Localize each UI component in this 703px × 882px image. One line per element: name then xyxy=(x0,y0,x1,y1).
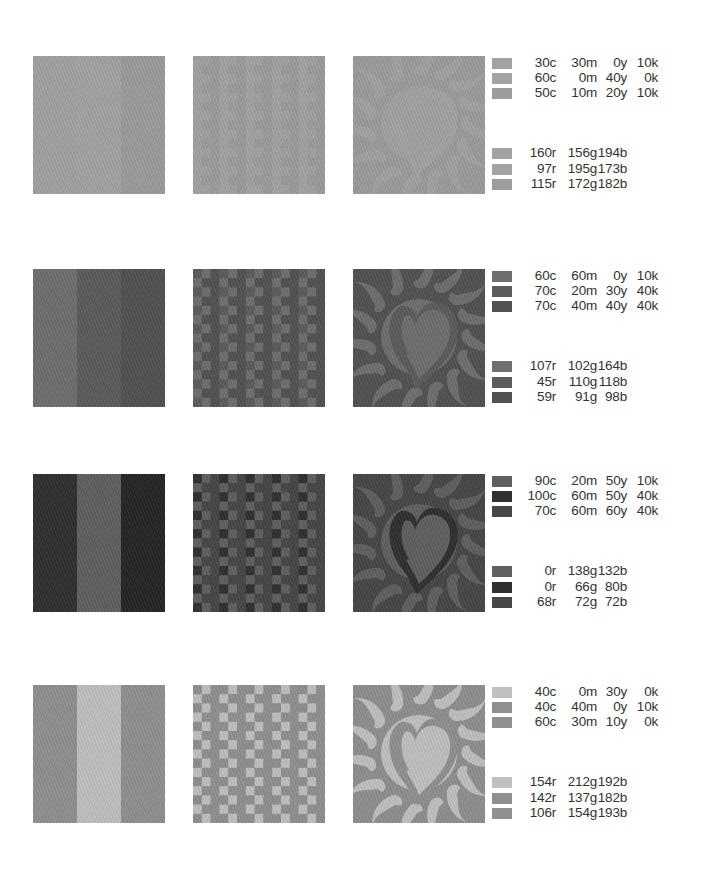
rgb-g-value: 156g xyxy=(568,145,597,160)
cmyk-swatch xyxy=(492,476,512,487)
cmyk-swatch xyxy=(492,58,512,69)
cmyk-k-value: 40k xyxy=(637,283,658,298)
cmyk-m-value: 60m xyxy=(571,488,597,503)
cmyk-c-value: 70c xyxy=(535,298,556,313)
cmyk-c-value: 40c xyxy=(535,684,556,699)
rgb-r-value: 160r xyxy=(530,145,556,160)
rgb-r-value: 0r xyxy=(544,579,556,594)
rgb-r-value: 154r xyxy=(530,774,556,789)
stripe-color-3 xyxy=(121,56,165,194)
rgb-r-value: 107r xyxy=(530,358,556,373)
cmyk-y-value: 20y xyxy=(606,85,627,100)
rgb-g-value: 195g xyxy=(568,161,597,176)
stripe-color-2 xyxy=(77,474,121,612)
cmyk-swatch xyxy=(492,73,512,84)
cmyk-c-value: 40c xyxy=(535,699,556,714)
rgb-g-value: 212g xyxy=(568,774,597,789)
cmyk-swatch xyxy=(492,687,512,698)
cmyk-c-value: 50c xyxy=(535,85,556,100)
rgb-g-value: 91g xyxy=(575,389,597,404)
rgb-r-value: 115r xyxy=(531,176,556,191)
cmyk-k-value: 40k xyxy=(637,503,658,518)
flaming-heart-icon xyxy=(353,269,485,407)
cmyk-k-value: 10k xyxy=(637,699,658,714)
rgb-swatch xyxy=(492,392,512,403)
stripe-color-3 xyxy=(121,685,165,823)
rgb-swatch xyxy=(492,597,512,608)
checkerboard-pattern-panel xyxy=(193,56,325,194)
cmyk-swatch xyxy=(492,491,512,502)
stripe-color-1 xyxy=(33,56,77,194)
cmyk-k-value: 0k xyxy=(644,684,658,699)
rgb-r-value: 59r xyxy=(537,389,556,404)
rgb-r-value: 0r xyxy=(544,563,556,578)
stripe-color-3 xyxy=(121,269,165,407)
rgb-g-value: 154g xyxy=(568,805,597,820)
cmyk-k-value: 40k xyxy=(637,488,658,503)
cmyk-y-value: 50y xyxy=(606,473,627,488)
cmyk-k-value: 10k xyxy=(637,85,658,100)
cmyk-y-value: 10y xyxy=(606,714,627,729)
rgb-g-value: 102g xyxy=(568,358,597,373)
cmyk-y-value: 0y xyxy=(613,268,627,283)
rgb-b-value: 118b xyxy=(599,374,627,389)
rgb-r-value: 106r xyxy=(530,805,556,820)
cmyk-k-value: 0k xyxy=(644,714,658,729)
cmyk-y-value: 40y xyxy=(606,70,627,85)
stripes-pattern-panel xyxy=(33,685,165,823)
cmyk-c-value: 70c xyxy=(535,283,556,298)
rgb-b-value: 132b xyxy=(598,563,627,578)
cmyk-y-value: 50y xyxy=(606,488,627,503)
cmyk-m-value: 0m xyxy=(579,684,597,699)
stripes-pattern-panel xyxy=(33,269,165,407)
rgb-r-value: 68r xyxy=(537,594,556,609)
rgb-swatch xyxy=(492,582,512,593)
cmyk-m-value: 0m xyxy=(579,70,597,85)
rgb-r-value: 142r xyxy=(530,790,556,805)
cmyk-k-value: 10k xyxy=(637,268,658,283)
rgb-g-value: 72g xyxy=(575,594,597,609)
rgb-swatch xyxy=(492,377,512,388)
cmyk-swatch xyxy=(492,717,512,728)
rgb-g-value: 137g xyxy=(568,790,597,805)
cmyk-m-value: 60m xyxy=(571,503,597,518)
cmyk-c-value: 30c xyxy=(535,55,556,70)
cmyk-m-value: 20m xyxy=(571,473,597,488)
rgb-g-value: 172g xyxy=(568,176,597,191)
cmyk-m-value: 60m xyxy=(571,268,597,283)
cmyk-c-value: 60c xyxy=(535,714,556,729)
flaming-heart-icon xyxy=(353,474,485,612)
rgb-b-value: 164b xyxy=(598,358,627,373)
cmyk-c-value: 90c xyxy=(535,473,556,488)
stripe-color-1 xyxy=(33,474,77,612)
rgb-b-value: 98b xyxy=(605,389,627,404)
flaming-heart-icon xyxy=(353,56,485,194)
rgb-g-value: 110g xyxy=(569,374,597,389)
cmyk-y-value: 30y xyxy=(606,283,627,298)
stripes-pattern-panel xyxy=(33,56,165,194)
cmyk-y-value: 30y xyxy=(606,684,627,699)
checkerboard-pattern-panel xyxy=(193,269,325,407)
rgb-b-value: 193b xyxy=(598,805,627,820)
stripes-pattern-panel xyxy=(33,474,165,612)
cmyk-k-value: 40k xyxy=(637,298,658,313)
cmyk-swatch xyxy=(492,702,512,713)
stripe-color-1 xyxy=(33,685,77,823)
cmyk-k-value: 0k xyxy=(644,70,658,85)
cmyk-c-value: 70c xyxy=(535,503,556,518)
rgb-swatch xyxy=(492,777,512,788)
rgb-g-value: 138g xyxy=(568,563,597,578)
rgb-swatch xyxy=(492,808,512,819)
cmyk-y-value: 0y xyxy=(613,55,627,70)
cmyk-y-value: 0y xyxy=(613,699,627,714)
cmyk-m-value: 40m xyxy=(571,298,597,313)
rgb-swatch xyxy=(492,566,512,577)
cmyk-m-value: 30m xyxy=(571,55,597,70)
checkerboard-pattern-panel xyxy=(193,685,325,823)
rgb-b-value: 182b xyxy=(598,790,627,805)
cmyk-m-value: 30m xyxy=(571,714,597,729)
rgb-b-value: 80b xyxy=(605,579,627,594)
cmyk-swatch xyxy=(492,286,512,297)
rgb-b-value: 194b xyxy=(598,145,627,160)
rgb-g-value: 66g xyxy=(575,579,597,594)
